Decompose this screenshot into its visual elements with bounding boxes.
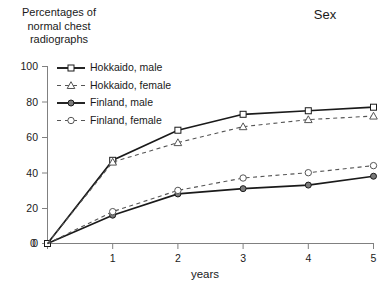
x-tick-label-0: 0 (30, 237, 36, 249)
open-circle-marker (68, 117, 74, 123)
open-square-marker (305, 108, 311, 114)
legend-entry-hokkaido-female[interactable]: Hokkaido, female (57, 79, 171, 91)
open-circle-marker (305, 170, 311, 176)
filled-circle-marker (240, 186, 246, 192)
filled-circle-marker (305, 182, 311, 188)
x-axis-ticks (48, 244, 374, 250)
legend-label: Finland, female (90, 114, 162, 126)
open-circle-marker (175, 187, 181, 193)
legend-entry-finland-male[interactable]: Finland, male (57, 96, 153, 108)
x-tick-label-5: 5 (371, 252, 377, 264)
legend-label: Hokkaido, female (90, 79, 171, 91)
open-circle-marker (370, 162, 376, 168)
y-axis-ticks (42, 67, 48, 244)
chart-page: Percentages of normal chest radiographs … (0, 0, 386, 298)
filled-circle-marker (68, 100, 74, 106)
y-tick-label-60: 60 (26, 131, 38, 143)
y-tick-label-80: 80 (26, 96, 38, 108)
legend-label: Finland, male (90, 96, 153, 108)
x-tick-label-2: 2 (175, 252, 181, 264)
series-finland-female (48, 162, 377, 243)
open-square-marker (240, 111, 246, 117)
x-axis-title: years (155, 268, 255, 280)
line-chart-plot: 100 80 60 40 20 0 0 1 2 3 4 5 Hokkaido, … (0, 0, 386, 298)
legend-label: Hokkaido, male (90, 61, 163, 73)
series-line (48, 176, 374, 243)
chart-legend: Hokkaido, maleHokkaido, femaleFinland, m… (57, 61, 171, 126)
y-tick-label-100: 100 (20, 60, 38, 72)
y-tick-label-40: 40 (26, 167, 38, 179)
open-square-marker (371, 104, 377, 110)
open-square-marker (68, 65, 74, 71)
legend-entry-finland-female[interactable]: Finland, female (57, 114, 162, 126)
x-tick-label-3: 3 (240, 252, 246, 264)
open-circle-marker (110, 208, 116, 214)
open-circle-marker (240, 175, 246, 181)
open-square-marker (175, 127, 181, 133)
series-line (48, 166, 374, 244)
x-tick-label-4: 4 (305, 252, 311, 264)
series-hokkaido-female (48, 112, 378, 243)
filled-circle-marker (371, 173, 377, 179)
y-tick-label-20: 20 (26, 202, 38, 214)
x-tick-label-1: 1 (110, 252, 116, 264)
legend-entry-hokkaido-male[interactable]: Hokkaido, male (57, 61, 163, 73)
